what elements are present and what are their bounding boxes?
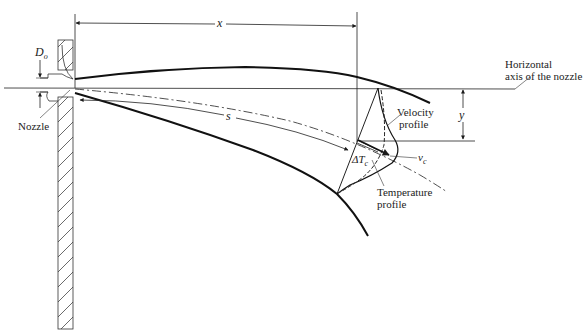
axis-label-line2: axis of the nozzle	[505, 70, 582, 82]
upper-jet-boundary	[75, 67, 430, 103]
x-label: x	[217, 17, 222, 29]
wall	[58, 40, 73, 329]
x-dimension	[75, 12, 357, 142]
velocity-label-line1: Velocity	[397, 106, 434, 118]
vc-label: vc	[418, 151, 426, 168]
vc-subscript: c	[423, 157, 427, 166]
nozzle-label: Nozzle	[18, 120, 49, 132]
axis-label: Horizontal axis of the nozzle	[505, 58, 582, 82]
s-label: s	[226, 110, 231, 122]
delta-tc-label: ΔTc	[352, 153, 368, 170]
delta-t-subscript: c	[365, 159, 369, 168]
velocity-profile-label: Velocity profile	[397, 106, 434, 130]
s-dimension	[80, 100, 348, 150]
jet-diagram	[0, 0, 587, 335]
temperature-profile-label: Temperature profile	[377, 186, 432, 210]
axis-label-line1: Horizontal	[505, 58, 582, 70]
delta-t-symbol: ΔT	[352, 153, 365, 165]
y-label: y	[459, 109, 464, 121]
diameter-subscript: o	[44, 52, 48, 61]
nozzle-diameter-label: Do	[35, 46, 48, 63]
temperature-label-line2: profile	[377, 198, 432, 210]
velocity-label-line2: profile	[397, 118, 434, 130]
temperature-label-line1: Temperature	[377, 186, 432, 198]
diameter-symbol: D	[35, 45, 44, 59]
jet-centerline	[75, 89, 447, 192]
